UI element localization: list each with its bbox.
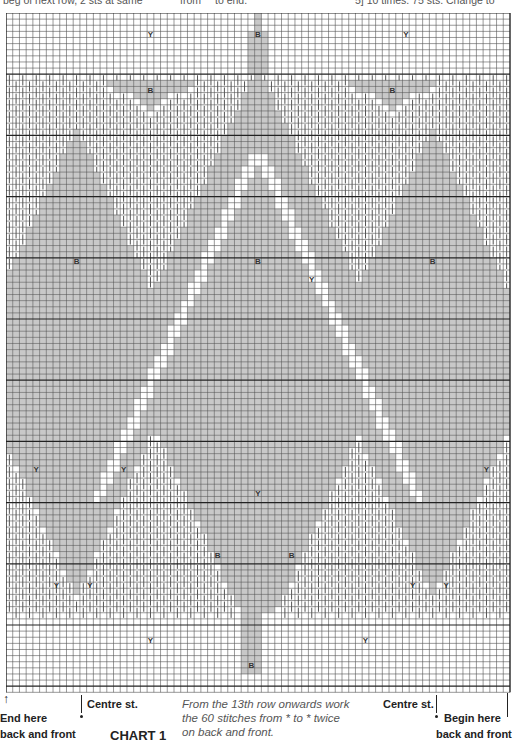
chart-note: From the 13th row onwards work the 60 st… bbox=[182, 697, 349, 739]
centre-dot-right-icon bbox=[435, 715, 438, 718]
end-here-label: End here bbox=[0, 712, 47, 724]
chart-label-y: Y bbox=[443, 581, 448, 590]
end-here-sub: back and front bbox=[0, 728, 76, 740]
chart-label-b: B bbox=[255, 256, 261, 265]
begin-here-sub: back and front bbox=[436, 728, 512, 740]
chart-label-y: Y bbox=[34, 464, 39, 473]
chart-grid bbox=[6, 13, 511, 693]
chart-label-y: Y bbox=[87, 581, 92, 590]
header-text-middle: from ** to end. bbox=[180, 0, 247, 6]
chart-label-y: Y bbox=[148, 30, 153, 39]
chart-label-b: B bbox=[255, 30, 261, 39]
begin-here-label: Begin here bbox=[444, 712, 501, 724]
chart-label-b: B bbox=[248, 660, 254, 669]
knitting-chart: YBYBBBBBYYYYYBBYYYYYYB bbox=[6, 13, 511, 697]
chart-title: CHART 1 bbox=[110, 728, 166, 743]
note-line-1: From the 13th row onwards work bbox=[182, 697, 349, 711]
chart-label-b: B bbox=[289, 550, 295, 559]
chart-label-b: B bbox=[390, 85, 396, 94]
chart-label-y: Y bbox=[363, 636, 368, 645]
header-text-right: 5] 10 times. 75 sts. Change to bbox=[355, 0, 495, 6]
centre-dot-left-icon bbox=[80, 715, 83, 718]
chart-label-b: B bbox=[74, 256, 80, 265]
chart-label-y: Y bbox=[121, 464, 126, 473]
centre-marker-right bbox=[436, 695, 437, 713]
centre-st-right: Centre st. bbox=[383, 698, 434, 710]
chart-label-y: Y bbox=[403, 30, 408, 39]
chart-label-b: B bbox=[430, 256, 436, 265]
chart-label-b: B bbox=[148, 85, 154, 94]
begin-marker bbox=[507, 693, 508, 717]
chart-label-y: Y bbox=[255, 489, 260, 498]
centre-st-left: Centre st. bbox=[87, 698, 138, 710]
chart-label-y: Y bbox=[309, 275, 314, 284]
chart-label-y: Y bbox=[484, 464, 489, 473]
centre-marker-left bbox=[81, 695, 82, 713]
end-arrow-icon: ↑ bbox=[3, 693, 9, 705]
chart-label-b: B bbox=[215, 550, 221, 559]
note-line-2: the 60 stitches from * to * twice bbox=[182, 711, 349, 725]
header-text-left: beg of next row, 2 sts at same bbox=[3, 0, 143, 6]
chart-label-y: Y bbox=[54, 581, 59, 590]
note-line-3: on back and front. bbox=[182, 725, 349, 739]
chart-label-y: Y bbox=[148, 636, 153, 645]
chart-label-y: Y bbox=[410, 581, 415, 590]
